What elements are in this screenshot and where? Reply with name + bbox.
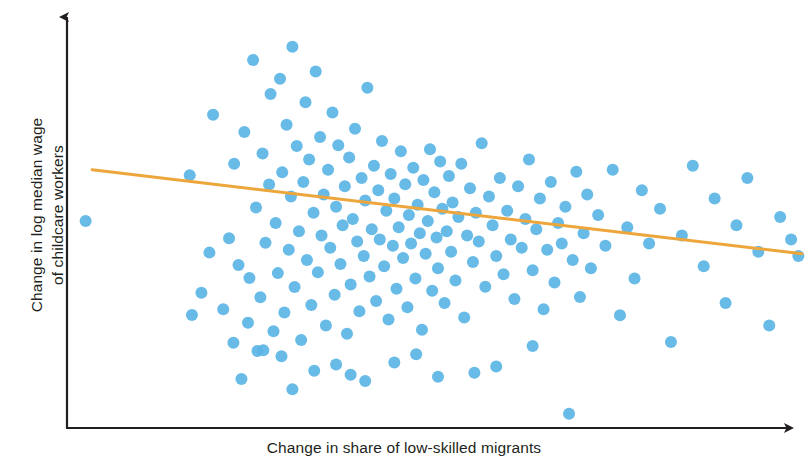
data-point — [629, 272, 641, 284]
plot-canvas — [0, 0, 808, 467]
data-point — [636, 184, 648, 196]
data-point — [274, 73, 286, 85]
data-point — [458, 311, 470, 323]
data-point — [607, 164, 619, 176]
data-point — [581, 188, 593, 200]
data-point — [383, 313, 395, 325]
data-point — [494, 172, 506, 184]
data-point — [399, 178, 411, 190]
data-point — [235, 373, 247, 385]
data-point — [570, 166, 582, 178]
data-point — [265, 88, 277, 100]
data-point — [730, 219, 742, 231]
data-point — [455, 158, 467, 170]
data-point — [372, 184, 384, 196]
data-point — [774, 211, 786, 223]
data-point — [203, 247, 215, 259]
data-point — [343, 152, 355, 164]
data-point — [329, 289, 341, 301]
data-point — [527, 264, 539, 276]
data-point — [567, 254, 579, 266]
data-point — [763, 320, 775, 332]
data-point — [527, 340, 539, 352]
data-point — [490, 250, 502, 262]
data-point — [303, 154, 315, 166]
data-point — [505, 234, 517, 246]
data-point — [278, 306, 290, 318]
data-point — [516, 242, 528, 254]
data-point — [397, 252, 409, 264]
data-point — [422, 215, 434, 227]
data-point — [349, 123, 361, 135]
data-point — [388, 193, 400, 205]
data-point — [345, 369, 357, 381]
data-point — [293, 225, 305, 237]
data-point — [530, 223, 542, 235]
data-point — [184, 169, 196, 181]
data-point — [347, 213, 359, 225]
data-point — [720, 297, 732, 309]
data-point — [227, 337, 239, 349]
data-point — [310, 65, 322, 77]
data-point — [467, 256, 479, 268]
data-point — [359, 375, 371, 387]
data-point — [393, 221, 405, 233]
data-point — [431, 231, 443, 243]
data-point — [432, 371, 444, 383]
data-point — [233, 259, 245, 271]
data-point — [687, 160, 699, 172]
data-point — [698, 260, 710, 272]
data-point — [709, 193, 721, 205]
data-point — [461, 229, 473, 241]
trend-line — [92, 170, 802, 254]
data-point — [257, 344, 269, 356]
data-point — [599, 240, 611, 252]
data-point — [449, 275, 461, 287]
data-point — [385, 168, 397, 180]
data-point — [259, 237, 271, 249]
data-point — [283, 244, 295, 256]
y-axis-label: Change in log median wage of childcare w… — [26, 70, 68, 360]
data-point — [483, 190, 495, 202]
data-point — [498, 268, 510, 280]
data-point — [447, 197, 459, 209]
data-point — [464, 182, 476, 194]
data-point — [378, 260, 390, 272]
data-point — [548, 277, 560, 289]
data-point — [358, 250, 370, 262]
data-point — [414, 227, 426, 239]
data-point — [291, 140, 303, 152]
data-point — [410, 348, 422, 360]
y-axis-label-line2: of childcare workers — [47, 70, 68, 360]
data-point — [272, 267, 284, 279]
data-point — [353, 305, 365, 317]
x-axis-label-text: Change in share of low-skilled migrants — [267, 439, 541, 456]
data-point — [592, 209, 604, 221]
data-point — [316, 229, 328, 241]
data-point — [247, 54, 259, 66]
data-point — [366, 223, 378, 235]
data-point — [243, 272, 255, 284]
data-point — [242, 317, 254, 329]
data-point — [403, 209, 415, 221]
data-point — [614, 309, 626, 321]
data-point — [445, 246, 457, 258]
data-point — [416, 324, 428, 336]
data-point — [275, 350, 287, 362]
data-point — [490, 361, 502, 373]
data-point — [80, 215, 92, 227]
data-point — [428, 186, 440, 198]
data-point — [337, 219, 349, 231]
data-point — [443, 170, 455, 182]
data-point — [741, 172, 753, 184]
scatter-plot-figure: Change in share of low-skilled migrants … — [0, 0, 808, 467]
data-point — [326, 106, 338, 118]
data-point — [368, 160, 380, 172]
data-point — [339, 180, 351, 192]
data-point — [434, 156, 446, 168]
data-point — [376, 135, 388, 147]
data-point — [186, 309, 198, 321]
data-point — [417, 174, 429, 186]
data-point — [195, 287, 207, 299]
data-point — [401, 301, 413, 313]
